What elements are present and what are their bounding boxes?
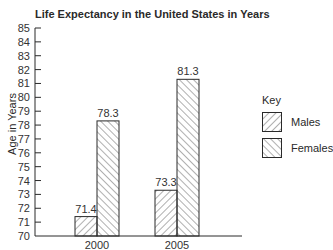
legend-label: Males [291,116,320,128]
y-tick-label: 83 [18,50,30,62]
y-tick-label: 72 [18,202,30,214]
y-tick-label: 84 [18,36,30,48]
y-tick-label: 79 [18,105,30,117]
y-tick-label: 75 [18,161,30,173]
males-swatch-icon [262,112,282,132]
bar-females-2000 [97,121,119,236]
y-tick-label: 82 [18,64,30,76]
legend-label: Females [291,142,333,154]
y-tick-label: 71 [18,216,30,228]
y-tick-label: 76 [18,147,30,159]
y-tick-label: 70 [18,230,30,242]
bar-females-2005 [177,79,199,236]
x-tick-label: 2005 [165,239,189,250]
axes: 70717273747576777879808182838485 [18,22,242,242]
legend-item-males: Males [262,112,320,132]
bar-value-label: 81.3 [177,65,198,77]
x-tick-label: 2000 [85,239,109,250]
bar-value-label: 71.4 [75,203,96,215]
y-tick-label: 78 [18,119,30,131]
y-tick-label: 77 [18,133,30,145]
y-tick-label: 74 [18,175,30,187]
females-swatch-icon [262,138,282,158]
bar-value-label: 78.3 [97,107,118,119]
y-tick-label: 80 [18,91,30,103]
legend-title: Key [262,94,281,106]
bar-males-2000 [75,217,97,236]
y-tick-label: 73 [18,188,30,200]
y-tick-label: 85 [18,22,30,34]
bar-males-2005 [155,190,177,236]
bars: 71.478.3200073.381.32005 [75,65,199,250]
legend-item-females: Females [262,138,333,158]
bar-value-label: 73.3 [155,176,176,188]
y-tick-label: 81 [18,77,30,89]
